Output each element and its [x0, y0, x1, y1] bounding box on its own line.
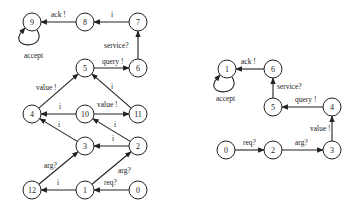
state-node-9: 9: [23, 13, 41, 31]
transition-label: i: [59, 102, 61, 111]
transition-label: query !: [295, 95, 316, 104]
transition-label: i: [114, 120, 116, 129]
state-id: 2: [136, 142, 140, 151]
state-id: 4: [330, 103, 334, 112]
transition-label: ack !: [51, 10, 66, 19]
transition-6-to-7: service?: [104, 31, 138, 59]
right-state-graph: req?arg?value !query !service?ack !accep…: [214, 57, 341, 159]
transition-4-to-5: query !: [282, 95, 323, 107]
state-node-4: 4: [23, 105, 41, 123]
self-loop-label: accept: [24, 51, 44, 60]
self-loop-1: accept: [214, 75, 236, 103]
state-id: 0: [224, 146, 228, 155]
state-node-1: 1: [218, 60, 236, 78]
state-id: 2: [271, 146, 275, 155]
transition-label: value !: [97, 100, 118, 109]
transition-label: i: [111, 82, 113, 91]
state-node-3: 3: [323, 141, 341, 159]
transition-label: service?: [277, 82, 302, 91]
transition-4-to-5: value !: [36, 74, 78, 108]
transition-7-to-8: i: [94, 10, 129, 22]
state-id: 8: [83, 18, 87, 27]
state-node-0: 0: [217, 141, 235, 159]
transition-1-to-12: i: [41, 178, 76, 190]
transition-0-to-2: req?: [235, 138, 264, 150]
self-loop-label: accept: [216, 94, 236, 103]
transition-3-to-4: i: [40, 119, 78, 142]
state-node-4: 4: [323, 98, 341, 116]
state-node-12: 12: [23, 181, 41, 199]
state-node-2: 2: [264, 141, 282, 159]
state-node-5: 5: [76, 59, 94, 77]
transition-label: ack !: [241, 57, 256, 66]
transition-label: i: [112, 134, 114, 143]
state-node-7: 7: [129, 13, 147, 31]
transition-8-to-9: ack !: [41, 10, 76, 22]
state-id: 12: [28, 186, 36, 195]
state-id: 1: [225, 65, 229, 74]
state-node-5: 5: [264, 98, 282, 116]
state-id: 3: [83, 142, 87, 151]
transition-label: i: [111, 10, 113, 19]
transition-label: i: [58, 120, 60, 129]
state-node-10: 10: [76, 105, 94, 123]
state-id: 10: [81, 110, 89, 119]
state-id: 5: [83, 64, 87, 73]
state-id: 1: [83, 186, 87, 195]
state-id: 11: [134, 110, 142, 119]
transition-label: value !: [310, 124, 331, 133]
state-id: 4: [30, 110, 34, 119]
state-node-11: 11: [129, 105, 147, 123]
state-id: 7: [136, 18, 140, 27]
transition-label: i: [57, 178, 59, 187]
transition-label: req?: [104, 178, 118, 187]
transition-3-to-4: value !: [310, 116, 332, 141]
left-state-graph: req?iarg?arg?iiiivalue !value !iquery !s…: [19, 10, 147, 199]
state-node-2: 2: [129, 137, 147, 155]
state-id: 0: [136, 186, 140, 195]
state-diagrams: req?iarg?arg?iiiivalue !value !iquery !s…: [0, 0, 358, 212]
state-id: 6: [136, 64, 140, 73]
transition-6-to-1: ack !: [236, 57, 264, 69]
state-node-6: 6: [264, 60, 282, 78]
transition-2-to-3: i: [94, 134, 129, 146]
self-loop-9: accept: [19, 28, 44, 60]
transition-label: arg?: [295, 138, 308, 147]
transition-0-to-1: req?: [94, 178, 129, 190]
transition-label: arg?: [44, 161, 57, 170]
state-id: 9: [30, 18, 34, 27]
state-id: 3: [330, 146, 334, 155]
state-node-1: 1: [76, 181, 94, 199]
state-node-6: 6: [129, 59, 147, 77]
transition-2-to-3: arg?: [282, 138, 323, 150]
state-node-3: 3: [76, 137, 94, 155]
transition-5-to-6: query !: [94, 57, 129, 68]
transition-10-to-4: i: [41, 102, 76, 114]
transition-label: service?: [104, 41, 129, 50]
transition-label: req?: [243, 138, 257, 147]
transition-label: arg?: [118, 166, 131, 175]
state-id: 6: [271, 65, 275, 74]
state-node-0: 0: [129, 181, 147, 199]
transition-label: query !: [102, 57, 123, 66]
transition-label: value !: [36, 83, 57, 92]
state-id: 5: [271, 103, 275, 112]
state-node-8: 8: [76, 13, 94, 31]
